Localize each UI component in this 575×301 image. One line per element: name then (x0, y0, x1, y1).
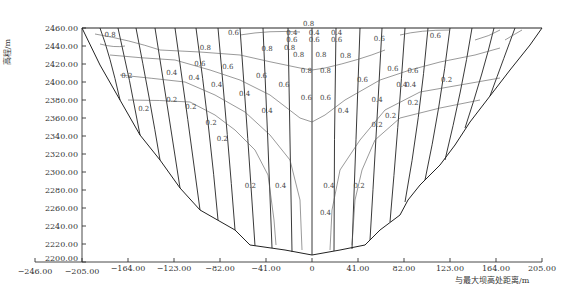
contour-label: 0.6 (430, 32, 442, 40)
y-axis-title: 高程/m (2, 38, 12, 65)
contour-label: 0.6 (320, 94, 332, 102)
contour-label: 0.2 (407, 99, 418, 107)
x-tick-label: −123.00 (157, 264, 192, 273)
contour-label: 0.2 (166, 96, 177, 104)
x-tick-label: −205.00 (65, 267, 100, 276)
contour-label: 0.6 (286, 36, 298, 44)
contour-label: 0.6 (222, 63, 234, 71)
contour-label: 0.4 (323, 182, 335, 190)
y-tick-label: 2360.00 (45, 114, 78, 123)
y-tick-label: 2300.00 (45, 168, 78, 177)
x-tick-label: 82.00 (393, 264, 416, 273)
contour-label: 0.4 (275, 182, 287, 190)
y-tick-label: 2420.00 (45, 60, 78, 69)
contour-label: 0.6 (301, 94, 313, 102)
contour-label: 0.2 (385, 112, 396, 120)
contour-label: 0.2 (185, 103, 196, 111)
x-tick-label: −164.00 (111, 264, 146, 273)
contour-label: 0.8 (340, 52, 351, 60)
contour-label: 0.8 (315, 51, 326, 59)
y-tick-label: 2440.00 (45, 42, 78, 51)
contour-label: 0.4 (320, 209, 332, 217)
y-tick-label: 2320.00 (45, 150, 78, 159)
contour-label: 0.2 (245, 182, 256, 190)
contour-label: 0.6 (278, 81, 290, 89)
contour-label: 0.6 (387, 65, 399, 73)
contour-label: 0.2 (354, 182, 365, 190)
contour-label: 0.4 (211, 81, 223, 89)
contour-label: 0.8 (293, 51, 304, 59)
contour-label: 0.2 (217, 135, 228, 143)
contour-label: 0.4 (372, 96, 384, 104)
x-tick-label: 41.00 (347, 264, 370, 273)
contour-label: 0.4 (166, 69, 178, 77)
section-lines (100, 28, 515, 255)
contour-label: 0.6 (228, 29, 240, 37)
contour-label: 0.8 (301, 67, 312, 75)
contour-label: 0.8 (200, 44, 211, 52)
contour-label: 0.6 (194, 60, 206, 68)
contour-label: 0.2 (205, 119, 216, 127)
contour-label: 0.6 (407, 67, 419, 75)
x-tick-label: 123.00 (436, 264, 464, 273)
contour-label: 0.8 (320, 67, 331, 75)
contour-label: 0.6 (331, 36, 343, 44)
contour-diagram: 2460.002440.002420.002400.002380.002360.… (0, 0, 575, 301)
x-axis-title: 与最大坝高处距离/m (455, 275, 530, 285)
y-tick-label: 2260.00 (45, 204, 78, 213)
contour-label: 0.8 (104, 31, 115, 39)
x-ticks: −246.00−205.00−164.00−123.00−82.00−41.00… (18, 258, 556, 276)
y-tick-label: 2200.00 (45, 254, 78, 263)
contour-label: 0.2 (121, 72, 132, 80)
contour-label: 0.8 (303, 20, 314, 28)
contour-label: 0.4 (262, 107, 274, 115)
y-tick-label: 2220.00 (45, 240, 78, 249)
contour-label: 0.4 (338, 107, 350, 115)
contour-label: 0.8 (262, 45, 273, 53)
contour-label: 0.6 (309, 36, 321, 44)
y-tick-label: 2380.00 (45, 96, 78, 105)
y-tick-label: 2280.00 (45, 186, 78, 195)
contour-label: 0.4 (239, 90, 251, 98)
contour-label: 0.2 (372, 121, 383, 129)
x-tick-label: −82.00 (205, 264, 235, 273)
x-tick-label: −246.00 (18, 267, 53, 276)
contour-label: 0.4 (189, 74, 201, 82)
y-ticks: 2460.002440.002420.002400.002380.002360.… (45, 24, 86, 263)
x-tick-label: 205.00 (528, 264, 556, 273)
y-tick-label: 2400.00 (45, 78, 78, 87)
x-tick-label: −41.00 (251, 264, 281, 273)
contour-label: 0.6 (357, 76, 369, 84)
contour-label: 0.4 (405, 81, 417, 89)
x-tick-label: 164.00 (482, 264, 510, 273)
axes: 2460.002440.002420.002400.002380.002360.… (2, 24, 556, 285)
contour-label: 0.6 (256, 72, 268, 80)
contour-label: 0.2 (441, 76, 452, 84)
x-tick-label: 0 (309, 264, 314, 273)
y-tick-label: 2460.00 (45, 24, 78, 33)
contour-label: 0.6 (374, 35, 386, 43)
contour-labels: 0.80.60.80.80.80.60.60.60.60.40.40.40.40… (104, 20, 452, 217)
y-tick-label: 2340.00 (45, 132, 78, 141)
y-tick-label: 2240.00 (45, 222, 78, 231)
contour-label: 0.2 (138, 105, 149, 113)
